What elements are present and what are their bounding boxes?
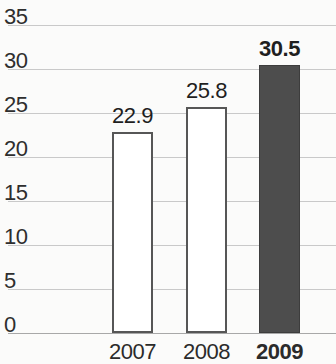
gridline-35 — [8, 25, 336, 26]
value-label-2008: 25.8 — [176, 80, 237, 102]
y-axis-tick-5: 5 — [4, 270, 16, 292]
bar-2009 — [259, 65, 300, 333]
y-axis-tick-35: 35 — [4, 6, 27, 28]
value-label-2007: 22.9 — [102, 105, 163, 127]
x-axis-label-2009: 2009 — [247, 341, 312, 363]
y-axis-tick-25: 25 — [4, 94, 27, 116]
bar-2007 — [112, 132, 153, 333]
x-axis-label-2008: 2008 — [174, 341, 239, 363]
y-axis-tick-10: 10 — [4, 226, 27, 248]
y-axis-tick-15: 15 — [4, 182, 27, 204]
bar-chart: 35 30 25 20 15 10 5 0 22.9 25.8 30.5 200… — [0, 0, 336, 364]
axis-baseline — [8, 333, 336, 334]
y-axis-tick-20: 20 — [4, 138, 27, 160]
y-axis-tick-30: 30 — [4, 50, 27, 72]
bar-2008 — [186, 107, 227, 333]
y-axis-tick-0: 0 — [4, 314, 16, 336]
x-axis-label-2007: 2007 — [100, 341, 165, 363]
value-label-2009: 30.5 — [249, 38, 310, 60]
